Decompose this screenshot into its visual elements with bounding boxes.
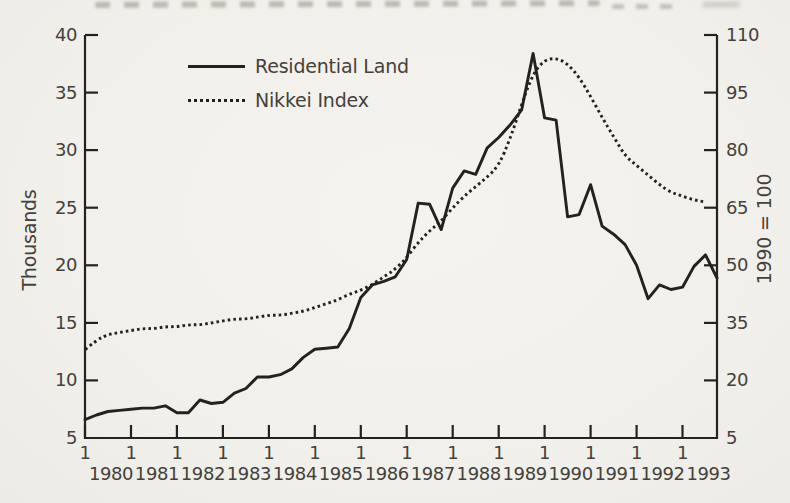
legend-item-nikkei-index: Nikkei Index [188, 89, 409, 111]
x-axis-year-label: 1981 [135, 465, 179, 483]
left-axis-title: Thousands [20, 189, 39, 290]
dotted-line-swatch [188, 99, 245, 102]
x-axis-quarter-label: 1 [355, 444, 366, 462]
x-axis-quarter-label: 1 [493, 444, 504, 462]
right-axis-tick-label: 95 [726, 84, 748, 102]
x-axis-year-label: 1993 [686, 465, 730, 483]
solid-line-swatch [188, 65, 245, 68]
left-axis-tick-label: 40 [55, 26, 77, 44]
right-axis-tick-label: 50 [726, 256, 748, 274]
x-axis-quarter-label: 1 [631, 444, 642, 462]
x-axis-quarter-label: 1 [217, 444, 228, 462]
right-axis-tick-label: 5 [726, 429, 737, 447]
x-axis-quarter-label: 1 [539, 444, 550, 462]
x-axis-quarter-label: 1 [447, 444, 458, 462]
x-axis-year-label: 1982 [181, 465, 225, 483]
x-axis-quarter-label: 1 [79, 444, 90, 462]
x-axis-quarter-label: 1 [309, 444, 320, 462]
x-axis-year-label: 1985 [319, 465, 363, 483]
right-axis-tick-label: 80 [726, 141, 748, 159]
x-axis-quarter-label: 1 [677, 444, 688, 462]
x-axis-year-label: 1992 [640, 465, 684, 483]
x-axis-year-label: 1987 [411, 465, 455, 483]
left-axis-tick-label: 20 [55, 256, 77, 274]
left-axis-tick-label: 15 [55, 314, 77, 332]
left-axis-tick-label: 30 [55, 141, 77, 159]
x-axis-year-label: 1983 [227, 465, 271, 483]
x-axis-year-label: 1989 [503, 465, 547, 483]
legend: Residential Land Nikkei Index [188, 55, 409, 111]
x-axis-quarter-label: 1 [171, 444, 182, 462]
x-axis-year-label: 1988 [457, 465, 501, 483]
legend-label-nikkei-index: Nikkei Index [255, 91, 369, 110]
right-axis-tick-label: 110 [726, 26, 759, 44]
right-axis-tick-label: 20 [726, 371, 748, 389]
right-axis-title: 1990 = 100 [755, 174, 774, 285]
chart-figure: Thousands 1990 = 100 40 35 30 25 20 15 1… [0, 0, 790, 503]
x-axis-year-label: 1991 [594, 465, 638, 483]
x-axis-quarter-label: 1 [263, 444, 274, 462]
left-axis-tick-label: 10 [55, 371, 77, 389]
legend-item-residential-land: Residential Land [188, 55, 409, 77]
left-axis-tick-label: 5 [66, 429, 77, 447]
legend-label-residential-land: Residential Land [255, 57, 409, 76]
right-axis-tick-label: 35 [726, 314, 748, 332]
x-axis-year-label: 1990 [549, 465, 593, 483]
x-axis-year-label: 1980 [89, 465, 133, 483]
x-axis-quarter-label: 1 [125, 444, 136, 462]
left-axis-tick-label: 35 [55, 84, 77, 102]
right-axis-tick-label: 65 [726, 199, 748, 217]
x-axis-quarter-label: 1 [585, 444, 596, 462]
x-axis-year-label: 1986 [365, 465, 409, 483]
x-axis-year-label: 1984 [273, 465, 317, 483]
x-axis-quarter-label: 1 [401, 444, 412, 462]
left-axis-tick-label: 25 [55, 199, 77, 217]
